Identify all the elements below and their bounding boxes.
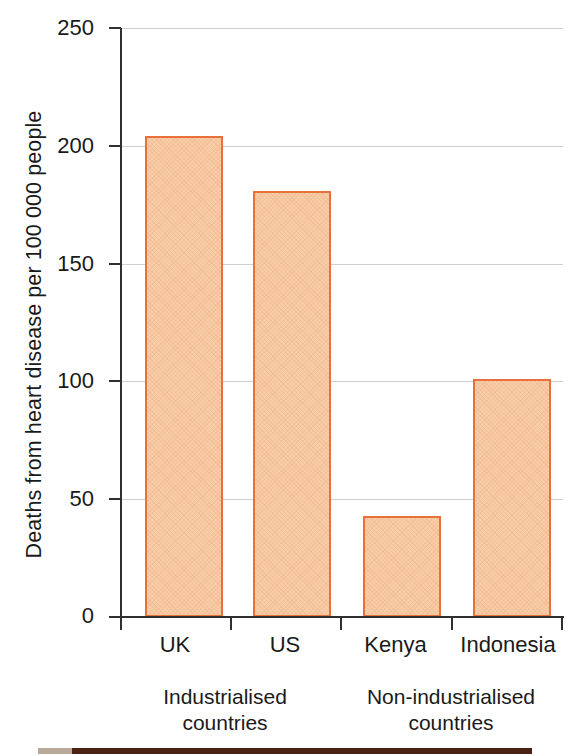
y-axis-line bbox=[120, 28, 122, 619]
y-tick-label-200: 200 bbox=[32, 135, 94, 157]
y-tick-label-250: 250 bbox=[32, 17, 94, 39]
page-bottom-strip bbox=[38, 748, 532, 754]
gridline-250 bbox=[120, 28, 563, 29]
y-tick-200 bbox=[109, 145, 121, 147]
y-tick-label-100: 100 bbox=[32, 370, 94, 392]
y-tick-50 bbox=[109, 498, 121, 500]
y-tick-label-150: 150 bbox=[32, 253, 94, 275]
group-label-industrialised-line2: countries bbox=[106, 710, 344, 736]
group-label-non-industrialised-line1: Non-industrialised bbox=[332, 684, 570, 710]
bar-indonesia bbox=[473, 379, 551, 617]
group-label-industrialised-line1: Industrialised bbox=[106, 684, 344, 710]
x-axis-line bbox=[120, 616, 564, 618]
x-label-us: US bbox=[230, 633, 340, 657]
x-tick-1 bbox=[230, 617, 232, 630]
x-tick-4 bbox=[561, 617, 563, 630]
group-label-non-industrialised-line2: countries bbox=[332, 710, 570, 736]
group-label-industrialised: Industrialised countries bbox=[106, 684, 344, 737]
group-label-non-industrialised: Non-industrialised countries bbox=[332, 684, 570, 737]
y-tick-150 bbox=[109, 263, 121, 265]
y-tick-label-50: 50 bbox=[32, 488, 94, 510]
bar-kenya bbox=[363, 516, 441, 617]
x-tick-0 bbox=[120, 617, 122, 630]
bar-uk bbox=[145, 136, 223, 617]
x-label-uk: UK bbox=[120, 633, 230, 657]
page-bottom-strip-cap bbox=[38, 748, 72, 754]
bar-us bbox=[253, 191, 331, 617]
y-tick-250 bbox=[109, 27, 121, 29]
x-tick-2 bbox=[340, 617, 342, 630]
x-label-kenya: Kenya bbox=[340, 633, 451, 657]
y-tick-label-0: 0 bbox=[32, 605, 94, 627]
y-axis-title: Deaths from heart disease per 100 000 pe… bbox=[22, 35, 47, 635]
y-tick-100 bbox=[109, 380, 121, 382]
bar-chart-figure: Deaths from heart disease per 100 000 pe… bbox=[0, 0, 570, 756]
plot-area bbox=[120, 28, 563, 617]
x-tick-3 bbox=[451, 617, 453, 630]
x-label-indonesia: Indonesia bbox=[449, 633, 567, 657]
